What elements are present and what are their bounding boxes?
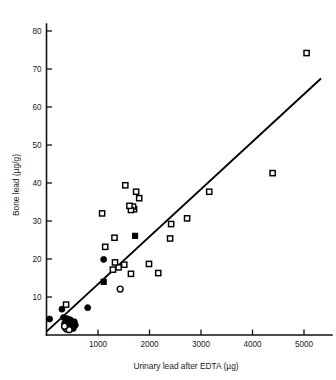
y-tick-label: 20 <box>32 255 42 264</box>
regression-line <box>47 79 321 332</box>
data-point-open-square <box>63 302 68 307</box>
data-point-open-square <box>122 262 127 267</box>
plot-canvas: 10002000300040005000 1020304050607080 Ur… <box>0 0 336 380</box>
x-axis-tick-marks <box>98 330 304 336</box>
data-point-open-square <box>304 50 309 55</box>
x-tick-label: 3000 <box>192 340 211 349</box>
data-point-open-square <box>123 183 128 188</box>
y-tick-label: 80 <box>32 27 42 36</box>
data-point-open-square <box>168 236 173 241</box>
data-point-open-square <box>127 203 132 208</box>
y-axis-title: Bone lead (µg/g) <box>11 154 21 216</box>
y-axis-tick-marks <box>47 31 53 297</box>
x-axis-title: Urinary lead after EDTA (µg) <box>133 361 238 371</box>
data-point-filled-square <box>101 279 106 284</box>
data-point-open-square <box>137 196 142 201</box>
data-point-open-square <box>169 221 174 226</box>
data-point-filled-circle <box>101 256 107 262</box>
data-point-layer <box>47 50 310 332</box>
x-tick-label: 4000 <box>243 340 262 349</box>
x-axis-tick-labels: 10002000300040005000 <box>89 340 314 349</box>
data-point-filled-circle <box>47 316 53 322</box>
data-point-open-square <box>146 261 151 266</box>
y-tick-label: 60 <box>32 103 42 112</box>
data-point-open-square <box>100 211 105 216</box>
data-point-filled-circle <box>59 306 65 312</box>
y-axis-tick-labels: 1020304050607080 <box>32 27 42 302</box>
y-tick-label: 40 <box>32 179 42 188</box>
data-point-filled-square <box>132 233 137 238</box>
scatter-plot-figure: 10002000300040005000 1020304050607080 Ur… <box>0 0 336 380</box>
data-point-open-square <box>207 189 212 194</box>
data-point-open-square <box>270 171 275 176</box>
data-point-open-square <box>110 267 115 272</box>
data-point-open-square <box>128 271 133 276</box>
y-tick-label: 70 <box>32 65 42 74</box>
y-tick-label: 50 <box>32 141 42 150</box>
y-tick-label: 10 <box>32 293 42 302</box>
x-tick-label: 2000 <box>140 340 159 349</box>
data-point-open-circle <box>62 323 68 329</box>
data-point-open-square <box>156 270 161 275</box>
data-point-filled-circle <box>85 305 91 311</box>
data-point-open-square <box>103 244 108 249</box>
y-tick-label: 30 <box>32 217 42 226</box>
x-tick-label: 5000 <box>295 340 314 349</box>
data-point-open-square <box>112 260 117 265</box>
x-tick-label: 1000 <box>89 340 108 349</box>
data-point-open-circle <box>117 286 123 292</box>
data-point-open-square <box>112 235 117 240</box>
data-point-open-square <box>134 189 139 194</box>
data-point-open-square <box>184 216 189 221</box>
